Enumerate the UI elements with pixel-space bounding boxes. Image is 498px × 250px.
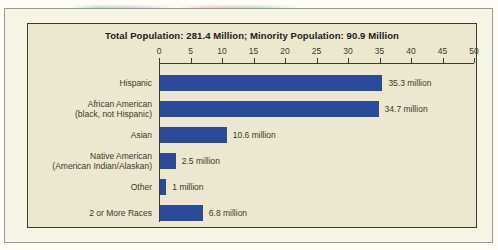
bar-row: Hispanic35.3 million — [159, 75, 474, 91]
x-axis-tick-label: 0 — [157, 46, 162, 56]
bar-category-label-line1: Native American — [90, 151, 152, 161]
bar-category-label: Other — [0, 182, 159, 192]
x-axis-tick-label: 30 — [343, 46, 352, 56]
chart-plot-panel: Total Population: 281.4 Million; Minorit… — [27, 23, 477, 228]
x-axis-tick-label: 20 — [280, 46, 289, 56]
bar-value-label: 10.6 million — [233, 130, 276, 140]
bar-value-label: 35.3 million — [388, 78, 431, 88]
x-axis-tick-label: 25 — [312, 46, 321, 56]
bar — [160, 75, 382, 91]
bar-row: Other1 million — [159, 179, 474, 195]
chart-title: Total Population: 281.4 Million; Minorit… — [28, 30, 476, 41]
bar-row: 2 or More Races6.8 million — [159, 205, 474, 221]
bar — [160, 101, 379, 117]
bar — [160, 179, 166, 195]
bar-row: Native American(American Indian/Alaskan)… — [159, 153, 474, 169]
bar-category-label-line2: (American Indian/Alaskan) — [0, 161, 152, 171]
bar-value-label: 2.5 million — [182, 156, 220, 166]
bar-category-label: 2 or More Races — [0, 208, 159, 218]
x-axis-tick-mark — [474, 58, 475, 63]
bar-category-label-line1: African American — [88, 99, 152, 109]
x-axis-tick-label: 35 — [375, 46, 384, 56]
bar-value-label: 6.8 million — [209, 208, 247, 218]
bar-category-label-line1: 2 or More Races — [89, 208, 152, 218]
bar-category-label-line1: Other — [131, 182, 152, 192]
bar-category-label: Native American(American Indian/Alaskan) — [0, 151, 159, 171]
x-axis-tick-label: 45 — [438, 46, 447, 56]
bar-value-label: 34.7 million — [385, 104, 428, 114]
chart-axis-area: 05101520253035404550 Hispanic35.3 millio… — [159, 46, 474, 222]
bar-category-label-line1: Hispanic — [119, 78, 152, 88]
x-axis-tick-label: 40 — [406, 46, 415, 56]
x-axis-tick-label: 15 — [249, 46, 258, 56]
bar-category-label: African American(black, not Hispanic) — [0, 99, 159, 119]
x-axis-tick-label: 10 — [217, 46, 226, 56]
chart-outer-frame: Total Population: 281.4 Million; Minorit… — [4, 8, 493, 243]
chart-screenshot: Total Population: 281.4 Million; Minorit… — [0, 0, 498, 250]
bar-category-label: Hispanic — [0, 78, 159, 88]
bar — [160, 205, 203, 221]
bar — [160, 127, 227, 143]
bar — [160, 153, 176, 169]
bar-category-label-line1: Asian — [131, 130, 152, 140]
bar-category-label-line2: (black, not Hispanic) — [0, 109, 152, 119]
bar-value-label: 1 million — [172, 182, 203, 192]
x-axis-tick-label: 50 — [469, 46, 478, 56]
x-axis-tick-label: 5 — [188, 46, 193, 56]
x-axis-line — [159, 63, 474, 64]
bar-category-label: Asian — [0, 130, 159, 140]
bar-row: African American(black, not Hispanic)34.… — [159, 101, 474, 117]
bar-row: Asian10.6 million — [159, 127, 474, 143]
